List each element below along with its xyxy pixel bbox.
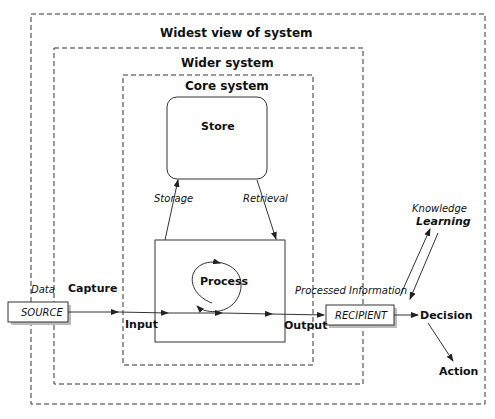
learning-label: Learning [416, 216, 471, 228]
store-label: Store [201, 121, 235, 133]
capture-label: Capture [68, 283, 117, 295]
storage-label: Storage [154, 193, 193, 205]
recipient-label: RECIPIENT [335, 310, 387, 322]
data-label: Data [31, 284, 55, 296]
process-box [155, 240, 285, 342]
widest-boundary-title: Widest view of system [160, 27, 313, 39]
wider-boundary-title: Wider system [181, 57, 274, 69]
retrieval-label: Retrieval [243, 193, 288, 205]
processed-information-label: Processed Information [295, 285, 407, 297]
source-label: SOURCE [21, 307, 63, 319]
decision-label: Decision [420, 310, 473, 322]
store-box [167, 97, 267, 179]
process-label: Process [200, 276, 248, 288]
input-label: Input [125, 319, 158, 331]
core-boundary-title: Core system [185, 80, 269, 92]
action-label: Action [439, 366, 478, 378]
knowledge-label: Knowledge [412, 203, 467, 215]
output-label: Output [284, 320, 327, 332]
